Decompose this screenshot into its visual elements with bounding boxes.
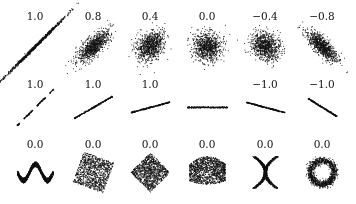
- coefficient-label: −1.0: [252, 78, 278, 90]
- coefficient-label: −1.0: [309, 78, 335, 90]
- coefficient-label: 0.0: [199, 138, 216, 150]
- coefficient-label: 1.0: [142, 78, 159, 90]
- coefficient-label: 0.0: [27, 138, 44, 150]
- correlation-figure: 1.0 0.8 0.4 0.0 −0.4 −0.8 1.0 1.0 1.0 −1…: [0, 0, 356, 204]
- coefficient-label: 1.0: [85, 78, 102, 90]
- coefficient-label: 1.0: [27, 10, 44, 22]
- coefficient-label: 0.0: [314, 138, 331, 150]
- coefficient-label: 0.0: [85, 138, 102, 150]
- coefficient-label: 0.4: [142, 10, 159, 22]
- coefficient-label: 0.8: [85, 10, 102, 22]
- scatter-canvas: [0, 0, 356, 204]
- coefficient-label: −0.8: [309, 10, 335, 22]
- coefficient-label: 0.0: [199, 10, 216, 22]
- coefficient-label: −0.4: [252, 10, 278, 22]
- coefficient-label: 0.0: [257, 138, 274, 150]
- coefficient-label: 0.0: [142, 138, 159, 150]
- coefficient-label: 1.0: [27, 78, 44, 90]
